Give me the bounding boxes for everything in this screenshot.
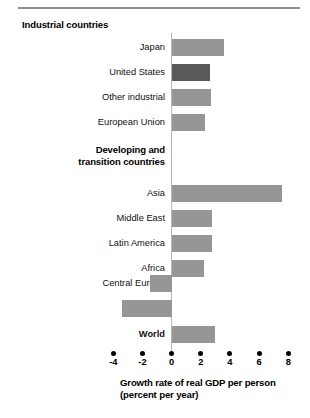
bar-asia (172, 185, 283, 202)
x-tick-label-4: 4 (218, 357, 242, 367)
bar-label-other-industrial: Other industrial (0, 86, 165, 108)
x-tick-label-0: 0 (160, 357, 184, 367)
x-tick-label-2: 2 (189, 357, 213, 367)
bar-label-latin-america: Latin America (0, 232, 165, 254)
bar-label-world: World (0, 323, 165, 345)
x-tick-label-6: 6 (247, 357, 271, 367)
x-tick-dot-4 (227, 351, 232, 356)
x-tick-dot-8 (286, 351, 291, 356)
bar-label-european-union: European Union (0, 111, 165, 133)
x-tick-dot--2 (140, 351, 145, 356)
bar-central-europe (150, 275, 172, 292)
bar-label-middle-east: Middle East (0, 207, 165, 229)
bar-africa (172, 260, 204, 277)
x-tick-dot-6 (257, 351, 262, 356)
x-axis-title-line1: Growth rate of real GDP per person (120, 377, 276, 388)
bar-russia (122, 300, 172, 317)
bar-united-states (172, 64, 210, 81)
x-axis-title: Growth rate of real GDP per person (perc… (120, 377, 310, 401)
group-heading-developing-line1: Developing and (96, 144, 165, 155)
x-tick-dot--4 (111, 351, 116, 356)
bar-label-central-europe: Central Europe (0, 272, 165, 294)
group-heading-developing: Developing and transition countries (0, 144, 165, 167)
bar-label-united-states: United States (0, 61, 165, 83)
x-axis-title-line2: (percent per year) (120, 389, 198, 400)
x-tick-label--2: -2 (130, 357, 154, 367)
bar-latin-america (172, 235, 213, 252)
x-tick-label-8: 8 (276, 357, 300, 367)
bar-middle-east (172, 210, 213, 227)
bar-label-asia: Asia (0, 182, 165, 204)
bar-world (172, 326, 216, 343)
top-divider-rule (18, 7, 300, 9)
group-heading-industrial: Industrial countries (22, 19, 108, 31)
group-heading-developing-line2: transition countries (78, 156, 165, 167)
bar-other-industrial (172, 89, 211, 106)
chart-figure: Industrial countries Developing and tran… (0, 0, 310, 418)
bar-european-union (172, 114, 206, 131)
bar-label-japan: Japan (0, 36, 165, 58)
x-tick-label--4: -4 (101, 357, 125, 367)
x-tick-dot-0 (169, 351, 174, 356)
x-tick-dot-2 (198, 351, 203, 356)
bar-japan (172, 39, 225, 56)
